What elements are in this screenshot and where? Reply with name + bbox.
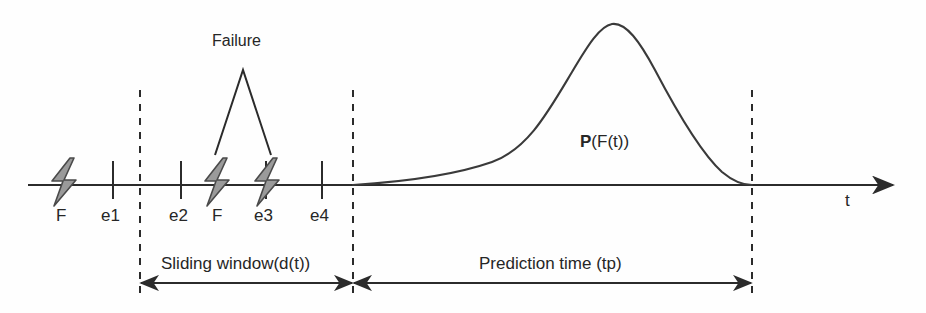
failure-prediction-diagram: Failure P(F(t)) F e1 e2 F e3 e4 t Slidin… (0, 0, 926, 313)
event-label-e2: e2 (169, 207, 188, 224)
diagram-canvas (0, 0, 926, 313)
failure-bolt-icon-2 (205, 158, 229, 206)
span-label-sliding-window: Sliding window(d(t)) (161, 255, 310, 272)
event-label-e4: e4 (310, 207, 329, 224)
event-label-F1: F (56, 207, 66, 224)
event-label-e1: e1 (101, 207, 120, 224)
peak-triangle-icon (215, 70, 271, 155)
event-label-e3: e3 (254, 207, 273, 224)
failure-label: Failure (212, 33, 261, 49)
failure-bolt-icon-1 (52, 158, 76, 206)
bell-curve-icon (353, 24, 752, 185)
event-label-F2: F (212, 207, 222, 224)
curve-label-rest: (F(t)) (591, 132, 629, 151)
span-label-prediction-time: Prediction time (tp) (479, 255, 622, 272)
curve-probability-label: P(F(t)) (580, 133, 629, 150)
curve-label-bold-p: P (580, 132, 591, 151)
time-axis-label: t (845, 192, 850, 209)
